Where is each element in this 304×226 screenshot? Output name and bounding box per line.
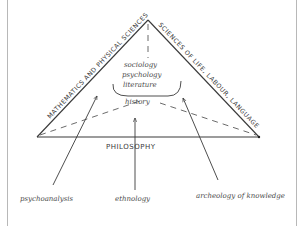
center-item-history: history	[125, 98, 151, 106]
base-edge-label: PHILOSOPHY	[106, 143, 156, 151]
knowledge-triangle-diagram: MATHEMATICS AND PHYSICAL SCIENCES SCIENC…	[0, 0, 304, 226]
label-psychoanalysis: psychoanalysis	[20, 195, 74, 203]
label-archeology-of-knowledge: archeology of knowledge	[196, 192, 285, 200]
label-ethnology: ethnology	[115, 195, 151, 203]
center-item-psychology: psychology	[122, 71, 163, 79]
dashed-lines	[40, 24, 256, 135]
vertex-right	[258, 136, 260, 138]
right-edge-label: SCIENCES OF LIFE, LABOUR, LANGUAGE	[157, 21, 261, 130]
triangle-right-edge	[148, 20, 259, 137]
center-item-literature: literature	[123, 81, 157, 89]
arrow-archeology	[183, 98, 218, 180]
center-item-sociology: sociology	[124, 61, 158, 69]
